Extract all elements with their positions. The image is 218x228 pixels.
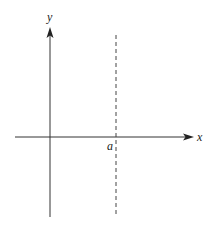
a-label: a bbox=[107, 139, 113, 153]
y-axis-label: y bbox=[46, 10, 53, 24]
x-axis-label: x bbox=[196, 130, 203, 144]
coordinate-diagram: x y a bbox=[0, 0, 218, 228]
